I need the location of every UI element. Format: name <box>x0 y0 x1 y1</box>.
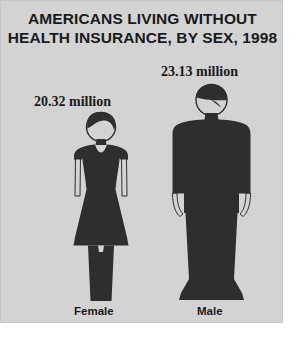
chart-panel: AMERICANS LIVING WITHOUT HEALTH INSURANC… <box>0 0 283 323</box>
female-value-label: 20.32 million <box>34 94 111 110</box>
female-category-label: Female <box>74 305 114 317</box>
male-figure-icon <box>164 83 259 307</box>
female-figure-icon <box>58 111 144 307</box>
chart-title: AMERICANS LIVING WITHOUT HEALTH INSURANC… <box>1 9 283 47</box>
male-value-label: 23.13 million <box>161 64 238 80</box>
infographic-root: AMERICANS LIVING WITHOUT HEALTH INSURANC… <box>0 0 295 339</box>
male-category-label: Male <box>197 305 223 317</box>
